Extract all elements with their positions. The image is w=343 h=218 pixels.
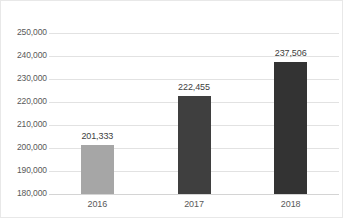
bar xyxy=(274,62,307,194)
bar xyxy=(81,145,114,194)
bar-value-label: 237,506 xyxy=(256,48,326,58)
bar xyxy=(178,96,211,194)
y-axis-tick-label: 250,000 xyxy=(3,27,47,37)
y-axis-tick-label: 210,000 xyxy=(3,119,47,129)
x-axis-tick-label: 2017 xyxy=(159,199,229,209)
bar-value-label: 222,455 xyxy=(159,82,229,92)
y-axis-tick-label: 190,000 xyxy=(3,165,47,175)
y-axis-tick-label: 180,000 xyxy=(3,188,47,198)
y-axis-tick-label: 240,000 xyxy=(3,50,47,60)
x-axis-tick-label: 2016 xyxy=(62,199,132,209)
y-axis-tick-label: 230,000 xyxy=(3,73,47,83)
gridline xyxy=(49,194,339,195)
bar-value-label: 201,333 xyxy=(62,131,132,141)
bar-chart: 250,000240,000230,000220,000210,000200,0… xyxy=(0,0,343,218)
y-axis-tick-label: 200,000 xyxy=(3,142,47,152)
gridline xyxy=(49,33,339,34)
x-axis-tick-label: 2018 xyxy=(256,199,326,209)
y-axis-tick-label: 220,000 xyxy=(3,96,47,106)
